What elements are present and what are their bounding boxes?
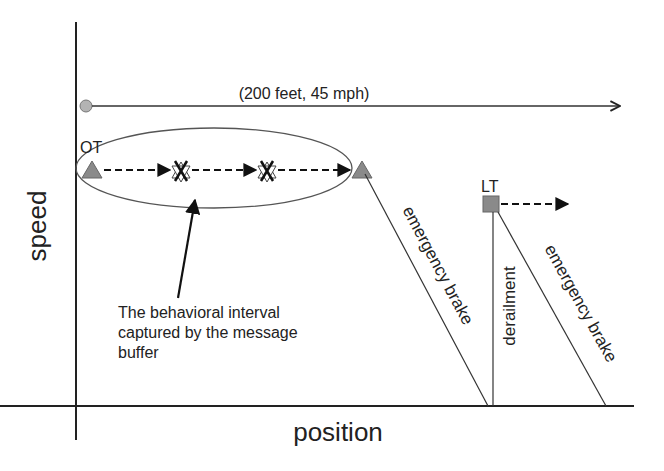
annotation-line-2: captured by the message [118,324,298,341]
annotation-arrow [178,200,195,298]
emergency-brake-label-2: emergency brake [541,241,621,365]
ot-label: OT [80,139,102,156]
x-axis-label: position [293,417,383,447]
speed-position-diagram: speed position (200 feet, 45 mph) OT eme… [0,0,664,471]
crossed-marker-icon [258,161,276,182]
trajectory-label: (200 feet, 45 mph) [239,85,370,102]
derailment-label: derailment [500,266,519,346]
crossed-marker-icon [172,161,190,182]
top-trajectory: (200 feet, 45 mph) [80,85,620,112]
emergency-brake-label-1: emergency brake [399,203,477,328]
lt-label: LT [481,178,499,195]
emergency-brake-line-1 [365,174,488,406]
y-axis-label: speed [22,191,52,262]
annotation-line-3: buffer [118,344,159,361]
ot-triangle-icon [82,161,102,178]
start-circle-icon [80,100,92,112]
lt-square-icon [483,196,499,212]
behavioral-interval-ellipse [76,128,352,208]
annotation-line-1: The behavioral interval [118,304,280,321]
end-triangle-icon [352,161,372,178]
